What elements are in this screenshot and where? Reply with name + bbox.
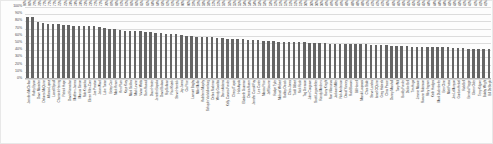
bar[interactable] (93, 26, 95, 79)
bar[interactable] (370, 45, 372, 79)
bar[interactable] (149, 32, 151, 79)
bar[interactable] (375, 45, 377, 79)
bar[interactable] (462, 48, 464, 79)
bar[interactable] (134, 31, 136, 79)
bar[interactable] (272, 41, 274, 79)
bar[interactable] (257, 40, 259, 79)
bar[interactable] (324, 43, 326, 79)
bar[interactable] (216, 38, 218, 79)
bar[interactable] (288, 42, 290, 79)
bar[interactable] (190, 36, 192, 79)
bar[interactable] (441, 47, 443, 79)
bar[interactable] (416, 47, 418, 79)
bar[interactable] (26, 17, 28, 79)
bar[interactable] (308, 43, 310, 79)
bar[interactable] (108, 29, 110, 79)
bar[interactable] (83, 26, 85, 79)
bar-value-label: 47% (377, 0, 380, 6)
bar[interactable] (175, 34, 177, 79)
bar[interactable] (457, 48, 459, 79)
bar-value-label: 46% (403, 0, 406, 6)
bar[interactable] (201, 37, 203, 79)
bar[interactable] (380, 45, 382, 79)
bar[interactable] (354, 44, 356, 79)
bar[interactable] (298, 42, 300, 79)
bar[interactable] (98, 27, 100, 79)
bar[interactable] (472, 49, 474, 79)
bar[interactable] (329, 44, 331, 79)
bar[interactable] (119, 30, 121, 79)
bar[interactable] (180, 35, 182, 79)
bar[interactable] (339, 44, 341, 79)
bar[interactable] (165, 34, 167, 79)
bar[interactable] (344, 44, 346, 79)
bar[interactable] (267, 41, 269, 79)
bar[interactable] (406, 46, 408, 79)
bar[interactable] (482, 49, 484, 79)
bar[interactable] (72, 26, 74, 79)
bar[interactable] (395, 46, 397, 79)
bar[interactable] (231, 39, 233, 79)
bar[interactable] (477, 49, 479, 79)
bar[interactable] (467, 49, 469, 79)
bar[interactable] (277, 42, 279, 79)
bar-value-label: 67% (121, 0, 124, 6)
bar[interactable] (447, 47, 449, 79)
bar[interactable] (144, 32, 146, 79)
bar[interactable] (488, 49, 490, 79)
bar[interactable] (431, 47, 433, 79)
bar[interactable] (160, 33, 162, 79)
bar[interactable] (37, 22, 39, 79)
bar[interactable] (452, 48, 454, 79)
bar[interactable] (129, 31, 131, 79)
bar[interactable] (349, 44, 351, 79)
bar[interactable] (211, 37, 213, 79)
bar[interactable] (293, 42, 295, 79)
bar[interactable] (42, 23, 44, 79)
bar[interactable] (262, 41, 264, 79)
bar-value-label: 63% (162, 0, 165, 6)
bar[interactable] (359, 44, 361, 79)
bar[interactable] (88, 26, 90, 79)
bar-value-label: 41% (485, 0, 488, 6)
bar-value-label: 52% (285, 0, 288, 6)
bar[interactable] (247, 40, 249, 79)
bar[interactable] (206, 37, 208, 79)
bar[interactable] (313, 43, 315, 79)
bar[interactable] (334, 44, 336, 79)
bar[interactable] (221, 38, 223, 79)
bar[interactable] (426, 47, 428, 79)
bar[interactable] (365, 44, 367, 79)
bar[interactable] (103, 28, 105, 79)
bar[interactable] (62, 25, 64, 79)
bar[interactable] (170, 34, 172, 79)
bar[interactable] (390, 46, 392, 79)
bar-value-label: 66% (136, 0, 139, 6)
bar[interactable] (400, 46, 402, 79)
bar[interactable] (318, 43, 320, 79)
bar[interactable] (385, 45, 387, 79)
bar[interactable] (303, 42, 305, 79)
bar[interactable] (67, 25, 69, 79)
bar-value-label: 62% (167, 0, 170, 6)
bar[interactable] (195, 37, 197, 79)
bar[interactable] (421, 47, 423, 79)
bar[interactable] (57, 24, 59, 79)
bar[interactable] (411, 47, 413, 79)
bar[interactable] (436, 47, 438, 79)
bar[interactable] (31, 17, 33, 79)
bar[interactable] (139, 31, 141, 79)
bar[interactable] (185, 36, 187, 79)
bar[interactable] (47, 24, 49, 79)
bar[interactable] (52, 24, 54, 79)
bar[interactable] (113, 29, 115, 79)
bar[interactable] (252, 40, 254, 79)
bar[interactable] (124, 31, 126, 79)
bar[interactable] (226, 39, 228, 79)
bar[interactable] (154, 33, 156, 79)
bar[interactable] (236, 39, 238, 79)
bar[interactable] (78, 26, 80, 79)
bar[interactable] (242, 39, 244, 79)
y-axis: 100%90%80%70%60%50%40%30%20%10%0% (1, 7, 24, 79)
bar[interactable] (283, 42, 285, 79)
